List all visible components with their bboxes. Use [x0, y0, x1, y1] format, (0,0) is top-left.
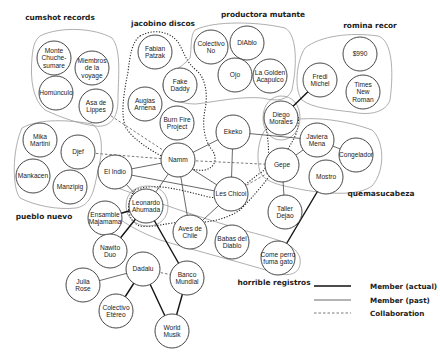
- node-label: Diablo: [223, 242, 242, 249]
- node-manzipig[interactable]: Manzipig: [53, 170, 87, 204]
- node-mostro[interactable]: Mostro: [309, 160, 343, 194]
- node-label: Julia: [76, 278, 90, 285]
- node-label: Fabian: [145, 45, 165, 52]
- node-label: Arnena: [134, 104, 156, 111]
- node-label: Aves de: [178, 225, 202, 232]
- legend-collab-label: Collaboration: [370, 309, 424, 318]
- node-label: Dadalu: [133, 265, 154, 272]
- node-label: Asa de: [86, 99, 107, 106]
- node-label: Rose: [75, 285, 91, 292]
- group-label-cumshot: cumshot records: [25, 13, 95, 22]
- node-label: Miembros: [78, 57, 108, 64]
- node-javiera[interactable]: JavieraMena: [300, 123, 334, 157]
- node-leskhicoi[interactable]: Les Chicoi: [214, 177, 248, 211]
- node-label: Javiera: [306, 133, 328, 140]
- node-label: Congelador: [339, 151, 374, 159]
- node-timesnew[interactable]: TimesNewRoman: [346, 75, 380, 109]
- node-comeperro[interactable]: Come perrofuma gato: [261, 241, 296, 275]
- node-label: Mundial: [175, 278, 199, 285]
- legend-actual-label: Member (actual): [370, 282, 437, 291]
- node-label: fuma gato: [263, 258, 293, 266]
- music-network-diagram: MonteChuche-sumareMiembrosde lavoyageHom…: [0, 0, 440, 359]
- node-monte[interactable]: MonteChuche-sumare: [37, 41, 71, 75]
- node-label: Djef: [72, 148, 84, 156]
- node-label: No: [207, 47, 216, 54]
- node-burnfire[interactable]: Burn FireProject: [160, 106, 194, 140]
- node-label: DiAblo: [237, 39, 257, 46]
- node-colectivoetereo[interactable]: ColectivoEtéreo: [99, 294, 133, 328]
- node-ekeko[interactable]: Ekeko: [216, 115, 250, 149]
- node-mika[interactable]: MikaMartini: [23, 123, 57, 157]
- node-label: Mostro: [316, 173, 336, 180]
- node-augias[interactable]: AugiasArnena: [128, 87, 162, 121]
- node-s990[interactable]: $990: [343, 37, 377, 71]
- node-fabian[interactable]: FabianPatzak: [138, 35, 172, 69]
- node-label: Daddy: [170, 85, 190, 93]
- legend: Member (actual) Member (past) Collaborat…: [314, 282, 437, 318]
- node-label: Martini: [30, 140, 50, 147]
- node-label: Chile: [182, 232, 197, 239]
- node-label: Dejao: [276, 212, 294, 220]
- node-label: sumare: [43, 62, 65, 69]
- node-label: Chuche-: [42, 54, 67, 61]
- group-label-pueblo: pueblo nuevo: [16, 212, 72, 221]
- node-label: Leonardo: [132, 199, 160, 206]
- node-label: Manzipig: [57, 183, 84, 191]
- node-diego[interactable]: DiegoMorales: [264, 101, 298, 135]
- node-label: Taller: [277, 205, 294, 212]
- node-label: Gepe: [274, 161, 290, 169]
- node-label: Musik: [163, 331, 181, 338]
- node-label: Nawito: [100, 244, 120, 251]
- node-label: Mika: [33, 133, 47, 140]
- node-djef[interactable]: Djef: [61, 135, 95, 169]
- node-label: Ahumada: [132, 206, 161, 213]
- node-label: Colectivo: [197, 40, 224, 47]
- node-homunculo[interactable]: Homúnculo: [39, 76, 73, 110]
- node-bancomundial[interactable]: BancoMundial: [170, 261, 204, 295]
- node-julia[interactable]: JuliaRose: [66, 268, 100, 302]
- node-label: El Indio: [104, 168, 126, 175]
- node-elindo[interactable]: El Indio: [98, 155, 132, 189]
- node-fake[interactable]: FakeDaddy: [163, 68, 197, 102]
- group-label-romina: romina recor: [343, 21, 397, 30]
- node-congelador[interactable]: Congelador: [339, 138, 374, 172]
- node-worldmusik[interactable]: WorldMusik: [155, 314, 189, 348]
- node-label: Acapulco: [256, 76, 283, 84]
- node-namm[interactable]: Namm: [161, 143, 195, 177]
- node-label: Patzak: [145, 52, 166, 59]
- group-label-productora: productora mutante: [221, 10, 305, 19]
- node-label: de la: [85, 64, 100, 71]
- node-label: Lippes: [86, 106, 106, 114]
- node-babas[interactable]: Babas delDiablo: [215, 225, 249, 259]
- node-label: Babas del: [217, 235, 247, 242]
- node-mankacen[interactable]: Mankacen: [16, 159, 50, 193]
- node-nawito[interactable]: NawitoDuo: [93, 234, 127, 268]
- node-ojo[interactable]: Ojo: [218, 58, 252, 92]
- node-asa[interactable]: Asa deLippes: [79, 89, 113, 123]
- node-lagolden[interactable]: La GoldenAcapulco: [253, 59, 287, 93]
- node-label: Colectivo: [102, 304, 129, 311]
- node-label: Fredi: [312, 73, 328, 80]
- node-label: Homúnculo: [39, 89, 73, 96]
- group-label-quemasucabeza: quemasucabeza: [348, 189, 415, 198]
- node-label: Mena: [309, 140, 326, 147]
- node-label: Ensamble: [90, 211, 120, 218]
- node-diablo[interactable]: DiAblo: [230, 26, 264, 60]
- node-label: Duo: [104, 251, 116, 258]
- node-label: Michel: [310, 80, 330, 87]
- node-label: Times: [354, 81, 372, 88]
- legend-past-label: Member (past): [370, 296, 430, 305]
- node-gepe[interactable]: Gepe: [265, 148, 299, 182]
- node-aves[interactable]: Aves deChile: [173, 215, 207, 249]
- node-miembros[interactable]: Miembrosde lavoyage: [75, 51, 109, 85]
- node-leonardo[interactable]: LeonardoAhumada: [129, 189, 163, 223]
- node-dadalu[interactable]: Dadalu: [126, 252, 160, 286]
- node-colectivono[interactable]: ColectivoNo: [194, 30, 228, 64]
- node-fredi[interactable]: FrediMichel: [303, 63, 337, 97]
- node-taller[interactable]: TallerDejao: [268, 195, 302, 229]
- node-label: Namm: [168, 156, 188, 163]
- group-label-horrible: horrible registros: [237, 278, 311, 287]
- node-label: Roman: [352, 96, 374, 103]
- node-label: Morales: [269, 118, 293, 125]
- node-ensamble[interactable]: EnsambleMajamama: [88, 201, 122, 235]
